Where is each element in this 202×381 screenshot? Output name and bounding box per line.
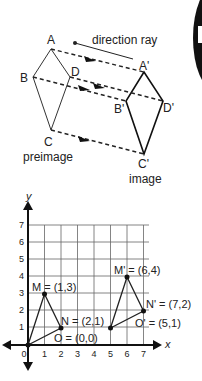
- point-m2-label: M' = (6,4): [114, 264, 160, 276]
- svg-text:5: 5: [108, 349, 113, 359]
- image-kite: [126, 72, 163, 154]
- svg-text:7: 7: [141, 349, 146, 359]
- preimage-kite: [33, 49, 70, 130]
- svg-text:D': D': [163, 101, 174, 115]
- point-o-label: O = (0,0): [54, 332, 98, 344]
- point-m-label: M = (1,3): [32, 281, 76, 293]
- edge-decoration: [193, 0, 202, 90]
- svg-text:A: A: [47, 33, 55, 47]
- svg-text:2: 2: [58, 349, 63, 359]
- svg-text:6: 6: [19, 237, 24, 247]
- svg-text:0: 0: [21, 349, 26, 359]
- direction-ray-label: direction ray: [92, 33, 157, 47]
- point-n2-label: N' = (7,2): [146, 298, 191, 310]
- point-o2-label: O' = (5,1): [135, 317, 181, 329]
- translation-figure: direction ray A B C D A' B' C' D' preima…: [0, 0, 202, 381]
- svg-text:x: x: [164, 338, 171, 350]
- svg-text:2: 2: [19, 305, 24, 315]
- svg-text:y: y: [25, 190, 33, 202]
- svg-text:3: 3: [19, 288, 24, 298]
- svg-text:4: 4: [91, 349, 96, 359]
- svg-text:D: D: [71, 65, 80, 79]
- svg-text:A': A': [139, 59, 149, 73]
- point-n-label: N = (2,1): [61, 315, 104, 327]
- svg-text:C: C: [44, 135, 53, 149]
- svg-text:4: 4: [19, 271, 24, 281]
- svg-text:B': B': [114, 102, 124, 116]
- svg-text:5: 5: [19, 254, 24, 264]
- coordinate-graph: x y 0 1 2 3 4 5 6 7 1 2 3 4 5 6 7: [2, 190, 191, 371]
- svg-text:B: B: [20, 71, 28, 85]
- svg-text:1: 1: [42, 349, 47, 359]
- svg-text:1: 1: [19, 322, 24, 332]
- svg-text:3: 3: [75, 349, 80, 359]
- preimage-label: preimage: [23, 150, 73, 164]
- svg-text:6: 6: [124, 349, 129, 359]
- image-label: image: [129, 172, 162, 186]
- svg-text:C': C': [138, 157, 149, 171]
- kite-diagram: direction ray A B C D A' B' C' D' preima…: [20, 33, 174, 186]
- svg-text:7: 7: [19, 220, 24, 230]
